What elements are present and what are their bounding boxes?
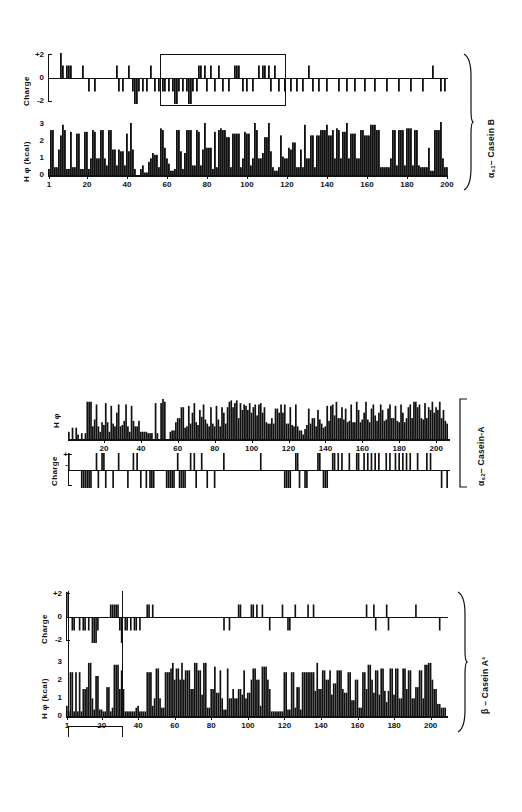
x-tick-label: 160 — [360, 180, 373, 189]
panel-beta-casein-a2: Charge +2 0 -2 H φ (kcal) 3 2 1 0 120406… — [0, 294, 522, 450]
charge-ytick-zero: 0 — [30, 73, 44, 82]
panel-alpha-s2-casein-a: H φ 20406080100120140160180200 Charge + … — [0, 198, 522, 290]
x-tick-mark — [127, 176, 128, 179]
x-tick-mark — [167, 176, 168, 179]
x-tick-label: 40 — [123, 180, 132, 189]
panel-alpha-s1-casein-b: Charge +2 0 -2 H φ (kcal) 3 2 1 0 120406… — [0, 24, 522, 194]
x-tick-mark — [49, 176, 50, 179]
x-tick-label: 140 — [320, 180, 333, 189]
hydro-ytick-1: 1 — [36, 153, 44, 162]
x-tick-mark — [87, 176, 88, 179]
x-tick-label: 100 — [240, 180, 253, 189]
hydro-ytick-2: 2 — [36, 136, 44, 145]
panel-beta-lactoglobulin-a: H φ 20406080100120140160 Charge + - β-La… — [0, 586, 522, 678]
x-tick-mark — [327, 176, 328, 179]
x-tick-mark — [407, 176, 408, 179]
highlight-box-alpha-s1 — [160, 54, 286, 106]
x-tick-label: 180 — [400, 180, 413, 189]
hydro-plot-alpha-s1 — [48, 122, 448, 176]
panel-alpha-lactalbumin-b: H φ 20406080100120 Charge + - α-Lactalbu… — [0, 688, 522, 780]
series-label-main: – Casein B — [486, 119, 496, 165]
hydro-ytick-3: 3 — [36, 119, 44, 128]
x-tick-label: 80 — [203, 180, 212, 189]
series-brace-alpha-s1 — [462, 52, 474, 192]
x-axis-alpha-s1: 120406080100120140160180200 — [48, 176, 448, 194]
panel-kappa-casein-b: Charge +2 0 -2 H φ (kcal) 3 2 1 0 120406… — [0, 437, 522, 589]
x-tick-mark — [447, 176, 448, 179]
x-tick-label: 1 — [47, 180, 51, 189]
x-tick-label: 120 — [280, 180, 293, 189]
x-tick-label: 60 — [163, 180, 172, 189]
series-label-sub: s1 — [490, 165, 496, 172]
x-tick-mark — [287, 176, 288, 179]
x-tick-mark — [207, 176, 208, 179]
x-tick-label: 20 — [83, 180, 92, 189]
series-label-greek: α — [486, 172, 496, 178]
hydrophobicity-axis-label: H φ (kcal) — [22, 124, 31, 182]
x-tick-mark — [247, 176, 248, 179]
hydro-ytick-0: 0 — [36, 170, 44, 179]
series-label-alpha-s1: αs1– Casein B — [486, 68, 496, 178]
x-tick-label: 200 — [440, 180, 453, 189]
x-tick-mark — [367, 176, 368, 179]
charge-ytick-minus2: -2 — [28, 96, 44, 105]
charge-ytick-plus2: +2 — [30, 50, 44, 59]
